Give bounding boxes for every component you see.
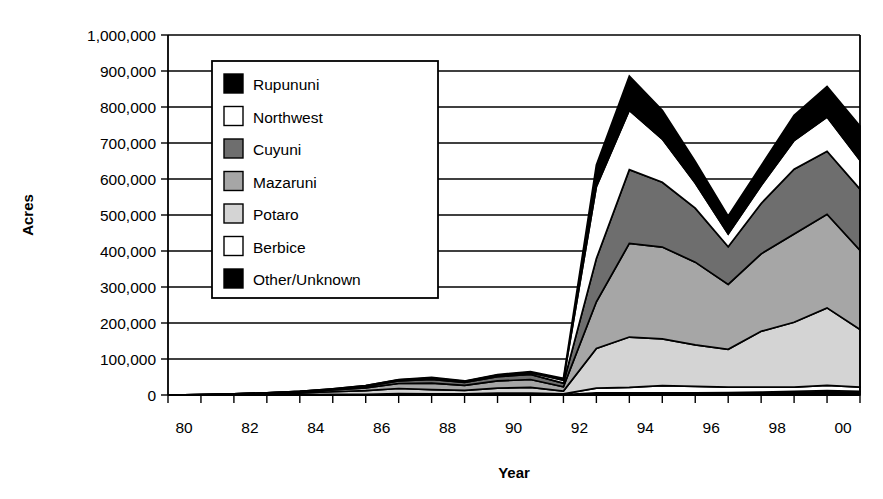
x-tick-label: 80 (175, 419, 193, 436)
legend-label-cuyuni: Cuyuni (253, 141, 301, 158)
y-tick-label: 100,000 (100, 351, 156, 368)
y-axis-title: Acres (19, 194, 36, 236)
legend-label-rupununi: Rupununi (253, 76, 319, 93)
x-tick-label: 86 (373, 419, 390, 436)
chart-canvas: 0100,000200,000300,000400,000500,000600,… (0, 0, 883, 499)
legend-swatch-berbice (224, 237, 243, 256)
legend-label-northwest: Northwest (253, 109, 323, 126)
y-tick-label: 0 (147, 387, 156, 404)
legend-label-berbice: Berbice (253, 239, 306, 256)
legend-swatch-northwest (224, 107, 243, 126)
legend-label-potaro: Potaro (253, 206, 299, 223)
legend-swatch-potaro (224, 204, 243, 223)
legend-background (212, 61, 438, 298)
legend-label-other-unknown: Other/Unknown (253, 271, 361, 288)
x-tick-label: 92 (571, 419, 588, 436)
y-tick-label: 200,000 (100, 315, 156, 332)
x-tick-label: 00 (834, 419, 852, 436)
x-tick-label: 82 (241, 419, 258, 436)
y-tick-label: 800,000 (100, 99, 156, 116)
y-tick-label: 700,000 (100, 135, 156, 152)
x-tick-label: 88 (439, 419, 456, 436)
x-tick-label: 98 (769, 419, 786, 436)
x-tick-label: 84 (307, 419, 325, 436)
y-tick-label: 500,000 (100, 207, 156, 224)
y-tick-label: 400,000 (100, 243, 156, 260)
legend-label-mazaruni: Mazaruni (253, 174, 317, 191)
y-tick-label: 300,000 (100, 279, 156, 296)
stacked-area-chart: 0100,000200,000300,000400,000500,000600,… (0, 0, 883, 499)
y-tick-label: 1,000,000 (87, 27, 156, 44)
x-tick-label: 96 (703, 419, 720, 436)
y-tick-label: 600,000 (100, 171, 156, 188)
x-axis-title: Year (498, 464, 530, 481)
x-tick-label: 90 (505, 419, 523, 436)
legend-swatch-mazaruni (224, 172, 243, 191)
legend-swatch-rupununi (224, 74, 243, 93)
chart-legend: RupununiNorthwestCuyuniMazaruniPotaroBer… (212, 61, 438, 298)
legend-swatch-other-unknown (224, 269, 243, 288)
x-tick-label: 94 (637, 419, 655, 436)
y-tick-label: 900,000 (100, 63, 156, 80)
legend-swatch-cuyuni (224, 139, 243, 158)
